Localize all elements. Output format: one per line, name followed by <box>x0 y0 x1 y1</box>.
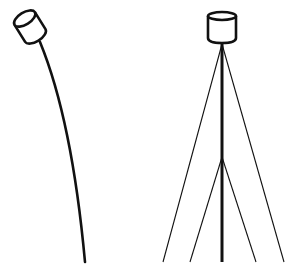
diagram-svg <box>0 0 294 269</box>
left-figure-bending-pole <box>11 7 85 262</box>
guy-line <box>190 157 222 262</box>
guy-line <box>163 44 222 262</box>
cylinder-group <box>11 7 48 47</box>
guy-line <box>222 157 256 262</box>
guy-line <box>222 44 284 262</box>
right-figure-guyed-pole <box>163 12 284 262</box>
bending-rod <box>40 42 85 262</box>
upright-cylinder-head <box>208 12 236 43</box>
cylinder-top <box>208 12 236 20</box>
tilted-cylinder-head <box>11 7 48 47</box>
diagram-canvas <box>0 0 294 269</box>
